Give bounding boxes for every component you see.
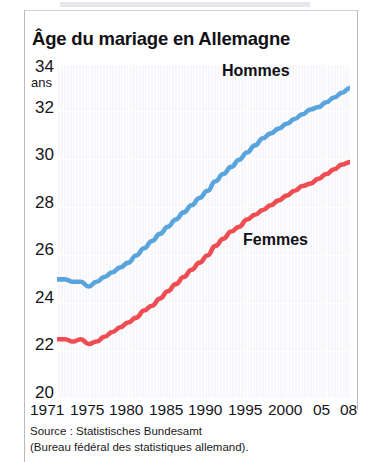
series-label-femmes: Femmes	[243, 231, 308, 249]
y-tick-34: 34	[8, 58, 54, 75]
figure-frame-top	[24, 10, 358, 11]
page-title: Âge du mariage en Allemagne	[32, 28, 290, 50]
y-tick-26: 26	[8, 241, 54, 258]
y-tick-32: 32	[8, 99, 54, 116]
x-tick-05: 05	[313, 402, 330, 418]
x-tick-1995: 1995	[228, 402, 262, 418]
figure-frame-right	[357, 10, 358, 410]
source-line-1: Source : Statistisches Bundesamt	[30, 424, 249, 440]
x-tick-1985: 1985	[149, 402, 183, 418]
y-tick-28: 28	[8, 194, 54, 211]
line-femmes	[57, 162, 350, 344]
x-tick-1980: 1980	[109, 402, 143, 418]
x-tick-1990: 1990	[188, 402, 222, 418]
y-axis-unit-label: ans	[31, 76, 52, 89]
x-tick-1971: 1971	[30, 402, 64, 418]
chart-figure: Âge du mariage en Allemagne 34 ans 32 30…	[0, 0, 369, 462]
x-tick-08: 08	[340, 402, 357, 418]
x-tick-1975: 1975	[70, 402, 104, 418]
y-tick-22: 22	[8, 336, 54, 353]
source-line-2: (Bureau fédéral des statistiques alleman…	[30, 440, 249, 456]
scan-artifact	[60, 2, 310, 7]
y-axis: 34 ans 32 30 28 26 24 22 20	[4, 0, 54, 462]
x-tick-2000: 2000	[268, 402, 302, 418]
y-tick-24: 24	[8, 289, 54, 306]
y-tick-30: 30	[8, 146, 54, 163]
source-note: Source : Statistisches Bundesamt (Bureau…	[30, 424, 249, 455]
series-label-hommes: Hommes	[222, 62, 290, 80]
y-tick-20: 20	[8, 384, 54, 401]
